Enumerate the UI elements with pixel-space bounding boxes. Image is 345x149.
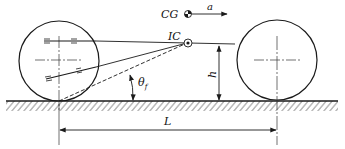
height-label: h bbox=[206, 71, 219, 78]
diagram-canvas: IC CG a h θf L bbox=[0, 0, 345, 149]
angle-arc bbox=[130, 75, 133, 100]
ground bbox=[6, 101, 338, 111]
tire-contact-to-ic-line bbox=[59, 43, 187, 101]
acceleration-label: a bbox=[207, 1, 213, 12]
angle-label: θf bbox=[138, 76, 149, 91]
instant-center-point bbox=[184, 39, 192, 47]
rear-wheel bbox=[237, 20, 317, 145]
ground-hatching bbox=[6, 101, 338, 111]
lower-control-arm bbox=[46, 67, 96, 79]
upper-arm-extension bbox=[96, 41, 235, 44]
cg-label: CG bbox=[161, 8, 178, 21]
ic-label: IC bbox=[167, 30, 181, 43]
cg-symbol-icon bbox=[185, 11, 192, 18]
front-wheel bbox=[19, 21, 99, 110]
suspension-geometry-diagram: IC CG a h θf L bbox=[0, 0, 345, 149]
wheelbase-label: L bbox=[163, 115, 171, 128]
